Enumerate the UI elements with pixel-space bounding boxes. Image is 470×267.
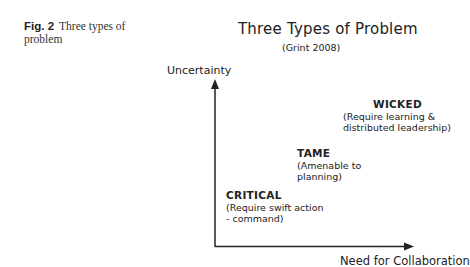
type-name: TAME bbox=[297, 148, 361, 160]
type-description: planning) bbox=[297, 171, 361, 183]
type-description: distributed leadership) bbox=[343, 122, 451, 134]
axes bbox=[0, 0, 470, 267]
type-description: (Require swift action bbox=[226, 202, 324, 214]
type-description: (Amenable to bbox=[297, 160, 361, 172]
type-description: (Require learning & bbox=[343, 111, 451, 123]
type-tame: TAME (Amenable to planning) bbox=[297, 148, 361, 183]
x-axis-arrow-icon bbox=[404, 243, 414, 251]
type-name: WICKED bbox=[373, 99, 451, 111]
y-axis-arrow-icon bbox=[211, 79, 219, 89]
type-wicked: WICKED (Require learning & distributed l… bbox=[343, 99, 451, 134]
type-description: - command) bbox=[226, 213, 324, 225]
type-critical: CRITICAL (Require swift action - command… bbox=[226, 190, 324, 225]
x-axis-label: Need for Collaboration bbox=[340, 254, 470, 267]
type-name: CRITICAL bbox=[226, 190, 324, 202]
